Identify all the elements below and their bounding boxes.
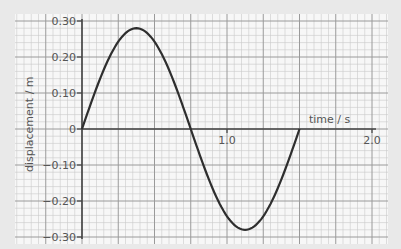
y-tick-label: −0.10 bbox=[42, 159, 76, 172]
x-tick-label: 2.0 bbox=[363, 134, 381, 147]
y-tick-label: −0.20 bbox=[42, 195, 76, 208]
y-tick-label: 0 bbox=[69, 123, 76, 136]
y-tick-label: 0.10 bbox=[52, 87, 77, 100]
x-axis-label: time / s bbox=[309, 113, 351, 126]
y-axis-label: displacement / m bbox=[23, 76, 36, 172]
y-tick-label: −0.30 bbox=[42, 231, 76, 244]
displacement-time-chart: 0.300.200.100−0.10−0.20−0.30 1.02.0 time… bbox=[0, 0, 401, 249]
y-tick-label: 0.30 bbox=[52, 15, 77, 28]
y-tick-label: 0.20 bbox=[52, 51, 77, 64]
x-tick-label: 1.0 bbox=[218, 134, 236, 147]
